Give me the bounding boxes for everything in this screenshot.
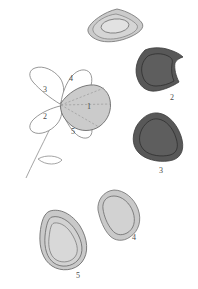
specimen-5-label: 5 [76,271,80,280]
specimen-4-label: 4 [132,233,136,242]
flower-petal-5-label: 5 [71,127,75,136]
specimen-2-label: 2 [170,93,174,102]
petal-dissection-figure: 2 3 4 5 3 [0,0,198,289]
flower-petal-2-label: 2 [43,112,47,121]
specimen-2-inner-ring [142,54,174,86]
figure-root: 2 3 4 5 3 [0,0,198,289]
specimen-3-label: 3 [159,166,163,175]
flower-petal-1-label: 1 [87,102,91,111]
flower-petal-4-label: 4 [69,74,73,83]
flower-petal-3-label: 3 [43,85,47,94]
